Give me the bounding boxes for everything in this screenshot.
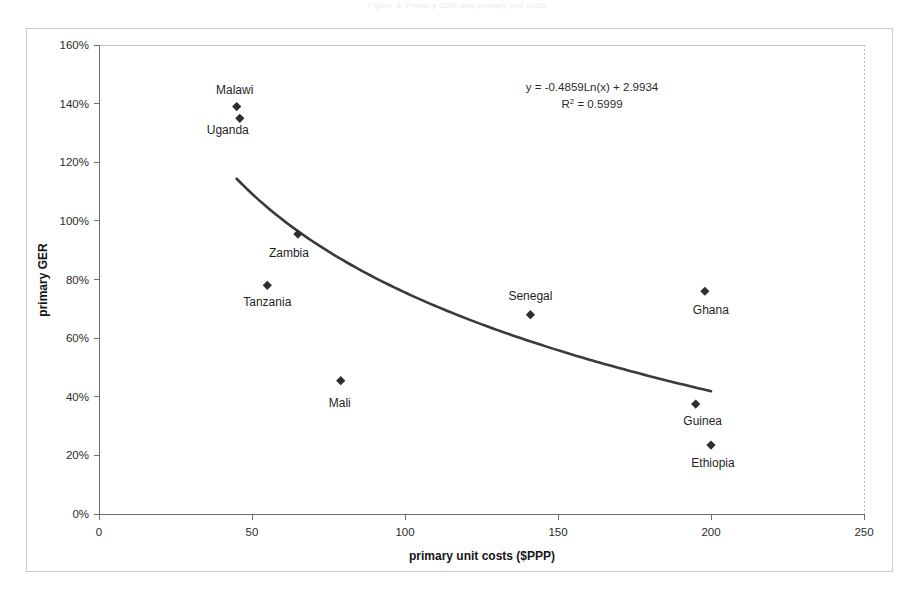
data-point: Mali	[329, 376, 351, 410]
data-point-label: Ghana	[693, 303, 729, 317]
x-tick-label: 200	[701, 526, 720, 538]
data-point: Ethiopia	[691, 441, 735, 471]
trendline-equation-annotation: y = -0.4859Ln(x) + 2.9934 R2 = 0.5999	[526, 81, 659, 110]
data-point-marker	[706, 441, 715, 450]
data-point-label: Malawi	[216, 83, 253, 97]
data-point-marker	[691, 399, 700, 408]
y-axis-title: primary GER	[36, 243, 50, 317]
y-tick-label: 160%	[60, 39, 89, 51]
data-point: Uganda	[207, 114, 249, 138]
data-point-label: Zambia	[269, 246, 309, 260]
plot-frame	[99, 45, 864, 514]
data-point-label: Uganda	[207, 123, 249, 137]
y-tick-label: 40%	[66, 391, 89, 403]
data-point-label: Senegal	[508, 289, 552, 303]
scatter-plot: 0%20%40%60%80%100%120%140%160% 050100150…	[0, 0, 915, 602]
data-point-marker	[235, 114, 244, 123]
data-point-label: Tanzania	[243, 295, 291, 309]
x-axis-ticks: 050100150200250	[96, 514, 874, 538]
y-tick-label: 60%	[66, 332, 89, 344]
r-squared-value: = 0.5999	[577, 98, 622, 110]
data-point-group: MalawiUgandaZambiaTanzaniaMaliSenegalGha…	[207, 83, 735, 471]
y-tick-label: 100%	[60, 215, 89, 227]
data-point-label: Guinea	[683, 414, 722, 428]
chart-root: Figure 4: Primary GER and primary unit c…	[0, 0, 915, 602]
equation-text: y = -0.4859Ln(x) + 2.9934	[526, 81, 659, 93]
trendline-logarithmic	[237, 179, 711, 391]
x-tick-label: 250	[854, 526, 873, 538]
y-tick-label: 140%	[60, 98, 89, 110]
data-point-label: Mali	[329, 396, 351, 410]
x-tick-label: 150	[548, 526, 567, 538]
y-tick-label: 120%	[60, 156, 89, 168]
data-point-marker	[293, 229, 302, 238]
y-axis-ticks: 0%20%40%60%80%100%120%140%160%	[60, 39, 99, 520]
data-point: Senegal	[508, 289, 552, 320]
x-tick-label: 0	[96, 526, 102, 538]
data-point: Tanzania	[243, 281, 291, 310]
data-point-marker	[336, 376, 345, 385]
y-tick-label: 20%	[66, 449, 89, 461]
r-squared-symbol: R	[561, 98, 569, 110]
data-point: Ghana	[693, 287, 729, 318]
data-point-label: Ethiopia	[691, 456, 735, 470]
data-point-marker	[526, 310, 535, 319]
x-tick-label: 50	[246, 526, 259, 538]
data-point-marker	[232, 102, 241, 111]
data-point: Malawi	[216, 83, 253, 112]
data-point-marker	[700, 287, 709, 296]
y-tick-label: 80%	[66, 274, 89, 286]
r-squared-text: R2 = 0.5999	[561, 97, 622, 110]
x-tick-label: 100	[395, 526, 414, 538]
x-axis-title: primary unit costs ($PPP)	[409, 549, 555, 563]
y-tick-label: 0%	[72, 508, 89, 520]
data-point: Guinea	[683, 399, 722, 428]
data-point-marker	[263, 281, 272, 290]
